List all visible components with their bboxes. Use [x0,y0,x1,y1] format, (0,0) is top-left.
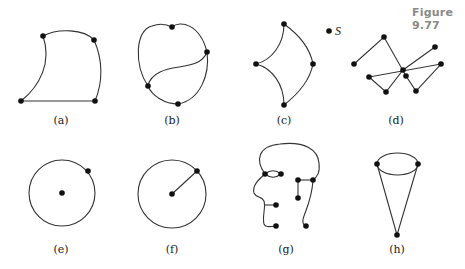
edge [138,24,172,86]
vertex [40,33,46,39]
vertex [281,102,287,108]
vertex [366,74,372,80]
apex-vertex [394,232,400,238]
panel-f-graph: (f) [138,160,206,256]
vertex [403,73,409,79]
edge [284,24,313,64]
vertex [351,61,357,67]
vertex [145,83,151,89]
vertex [278,171,284,177]
vertex [92,98,98,104]
panel-label-e: (e) [53,243,68,256]
vertex [374,161,380,167]
edge [178,52,208,104]
edge [256,24,284,64]
vertex [400,67,406,73]
ellipse [377,153,418,175]
edge [94,40,101,101]
panel-d-graph: (d) [351,34,444,127]
edge [256,64,284,105]
vertex [194,168,200,174]
panel-c-graph: S (c) [253,21,341,127]
point-s-label: S [335,24,341,38]
radius [172,171,197,194]
vertex [295,177,301,183]
vertex [253,61,259,67]
vertex [273,223,279,229]
vertex [91,37,97,43]
panel-label-h: (h) [389,243,405,256]
edge [260,143,320,180]
panel-g-graph: (g) [254,143,320,256]
panel-h-graph: (h) [374,153,421,256]
panel-label-a: (a) [53,114,68,127]
vertex [262,171,268,177]
panel-b-graph: (b) [138,24,210,127]
vertex [273,202,279,208]
vertex [310,177,316,183]
panel-a-graph: (a) [18,31,101,127]
panel-e-graph: (e) [29,160,95,256]
figure-canvas: (a) (b) S (c) [0,0,465,269]
vertex [18,98,24,104]
vertex [169,24,175,30]
vertex [295,195,301,201]
point-s [326,28,332,34]
panel-label-c: (c) [277,114,292,127]
vertex [310,61,316,67]
panel-label-d: (d) [388,114,404,127]
vertex [432,44,438,50]
edge [284,64,313,105]
vertex [413,88,419,94]
panel-label-b: (b) [164,114,180,127]
vertex [281,21,287,27]
vertex [383,89,389,95]
vertex [204,49,210,55]
vertex [438,61,444,67]
vertex [303,223,309,229]
edge [172,24,207,52]
vertex [85,168,91,174]
edge [303,180,313,226]
vertex [175,101,181,107]
edge-chain [354,37,441,92]
vertex [415,161,421,167]
edge [254,174,276,227]
panel-label-f: (f) [166,243,179,256]
edge [21,36,46,101]
edge [148,86,178,104]
panel-label-g: (g) [278,243,294,256]
vertex [381,34,387,40]
edge [148,52,207,86]
edge [43,31,94,40]
center-point [59,190,65,196]
center-point [169,191,175,197]
